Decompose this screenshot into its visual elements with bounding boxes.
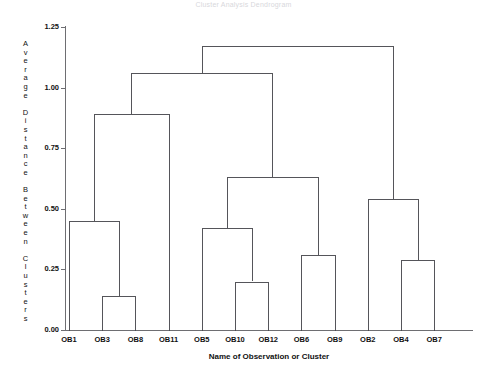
y-axis-title-char: e bbox=[20, 92, 31, 101]
y-axis-title-char: n bbox=[20, 238, 31, 247]
dendrogram-link-vertical bbox=[69, 221, 70, 330]
dendrogram-link-vertical bbox=[94, 114, 95, 221]
x-axis-tick bbox=[335, 321, 336, 331]
dendrogram-link-horizontal bbox=[235, 282, 269, 283]
dendrogram-link-vertical bbox=[202, 228, 203, 330]
dendrogram-link-vertical bbox=[434, 260, 435, 330]
dendrogram-link-horizontal bbox=[202, 46, 394, 47]
dendrogram-link-vertical bbox=[202, 46, 203, 73]
dendrogram-link-vertical bbox=[272, 73, 273, 177]
dendrogram-tree bbox=[0, 0, 487, 386]
dendrogram-link-vertical bbox=[418, 199, 419, 260]
leaf-label-ob7: OB7 bbox=[414, 335, 454, 344]
y-axis-tick bbox=[61, 148, 66, 149]
y-axis-tick-label: 1.00 bbox=[25, 84, 59, 92]
y-axis-tick-label: 0.25 bbox=[25, 265, 59, 273]
dendrogram-link-vertical bbox=[368, 199, 369, 330]
x-axis-tick bbox=[69, 321, 70, 331]
dendrogram-link-horizontal bbox=[102, 296, 136, 297]
y-axis-tick-label: 0.75 bbox=[25, 144, 59, 152]
dendrogram-link-vertical bbox=[401, 260, 402, 330]
y-axis-tick bbox=[61, 269, 66, 270]
dendrogram-link-vertical bbox=[119, 221, 120, 296]
x-axis-tick bbox=[102, 321, 103, 331]
dendrogram-link-horizontal bbox=[301, 255, 335, 256]
y-axis-title-char: s bbox=[20, 315, 31, 324]
y-axis-tick-label: 0.00 bbox=[25, 326, 59, 334]
dendrogram-link-vertical bbox=[169, 114, 170, 330]
dendrogram-link-vertical bbox=[393, 46, 394, 199]
y-axis-title: AverageDistanceBetweenClusters bbox=[20, 40, 31, 324]
y-axis-title-char: e bbox=[20, 169, 31, 178]
x-axis-tick bbox=[235, 321, 236, 331]
dendrogram-link-vertical bbox=[131, 73, 132, 114]
y-axis-tick bbox=[61, 88, 66, 89]
dendrogram-link-vertical bbox=[318, 177, 319, 255]
y-axis-tick-label: 0.50 bbox=[25, 205, 59, 213]
dendrogram-link-horizontal bbox=[131, 73, 273, 74]
x-axis-tick bbox=[268, 321, 269, 331]
y-axis-tick-label: 1.25 bbox=[25, 23, 59, 31]
y-axis-tick bbox=[61, 209, 66, 210]
dendrogram-link-horizontal bbox=[94, 114, 170, 115]
x-axis-tick bbox=[434, 321, 435, 331]
y-axis-line bbox=[65, 26, 66, 331]
x-axis-tick bbox=[135, 321, 136, 331]
x-axis-tick bbox=[368, 321, 369, 331]
x-axis-tick bbox=[169, 321, 170, 331]
x-axis-tick bbox=[301, 321, 302, 331]
dendrogram-link-vertical bbox=[335, 255, 336, 330]
dendrogram-figure: Cluster Analysis Dendrogram AverageDista… bbox=[0, 0, 487, 386]
x-axis-title: Name of Observation or Cluster bbox=[65, 352, 473, 361]
dendrogram-link-horizontal bbox=[227, 177, 319, 178]
dendrogram-link-horizontal bbox=[69, 221, 120, 222]
x-axis-tick bbox=[401, 321, 402, 331]
y-axis-tick bbox=[61, 27, 66, 28]
dendrogram-link-horizontal bbox=[202, 228, 253, 229]
dendrogram-link-vertical bbox=[252, 228, 253, 281]
dendrogram-link-vertical bbox=[301, 255, 302, 330]
dendrogram-link-horizontal bbox=[401, 260, 435, 261]
y-axis-tick bbox=[61, 330, 66, 331]
dendrogram-link-vertical bbox=[227, 177, 228, 228]
x-axis-tick bbox=[202, 321, 203, 331]
dendrogram-link-horizontal bbox=[368, 199, 419, 200]
page-title: Cluster Analysis Dendrogram bbox=[0, 0, 487, 9]
